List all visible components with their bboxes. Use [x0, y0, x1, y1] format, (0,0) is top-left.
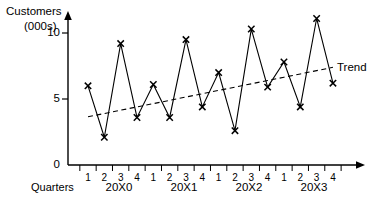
trend-line-series [88, 67, 333, 117]
customers-line-series [88, 18, 333, 137]
year-label-20X0: 20X0 [96, 182, 142, 193]
x-axis-ticks [80, 165, 341, 171]
year-label-20X3: 20X3 [291, 182, 337, 193]
trend-annotation-label: Trend [337, 62, 367, 73]
data-point-markers [85, 15, 336, 140]
year-label-20X2: 20X2 [226, 182, 272, 193]
x-tick-label-q1: 1 [212, 172, 226, 183]
x-tick-label-q1: 1 [146, 172, 160, 183]
x-tick-label-q1: 1 [81, 172, 95, 183]
x-tick-label-q1: 1 [277, 172, 291, 183]
year-label-20X1: 20X1 [161, 182, 207, 193]
axes [62, 11, 365, 169]
x-axis-label: Quarters [31, 182, 74, 193]
chart-container: Customers (000s) 10 5 0 1234123412341234… [0, 0, 377, 202]
